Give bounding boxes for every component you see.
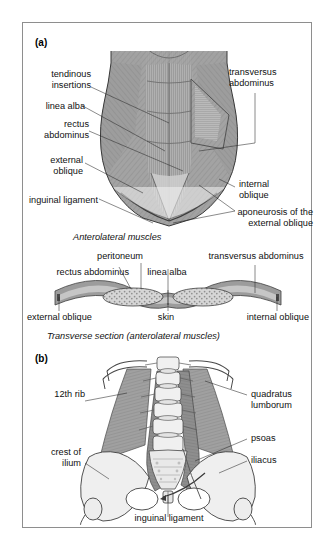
caption-anterolateral-muscles: Anterolateral muscles xyxy=(73,232,253,242)
label-inguinal-ligament: inguinal ligament xyxy=(29,195,109,206)
label-iliacus: iliacus xyxy=(251,455,307,466)
caption-transverse-section: Transverse section (anterolateral muscle… xyxy=(47,331,283,341)
figure-frame: (a) xyxy=(22,22,312,528)
transverse-section-illustration xyxy=(23,245,313,325)
label-quadratus-lumborum: quadratus lumborum xyxy=(251,389,313,410)
label-tendinous-insertions: tendinous insertions xyxy=(29,69,91,90)
label-linea-alba: linea alba xyxy=(23,101,85,112)
label-transversus-abdominus: transversus abdominus xyxy=(229,67,309,88)
label-crest-of-ilium: crest of ilium xyxy=(23,447,81,468)
label-aponeurosis-external-oblique: aponeurosis of the external oblique xyxy=(191,207,313,228)
label-rectus-abdominus: rectus abdominus xyxy=(27,119,89,140)
label-twelfth-rib: 12th rib xyxy=(23,389,85,400)
label-inguinal-ligament-b: inguinal ligament xyxy=(117,513,221,524)
label-external-oblique: external oblique xyxy=(25,155,83,176)
label-internal-oblique: internal oblique xyxy=(239,179,299,200)
label-psoas: psoas xyxy=(251,433,307,444)
